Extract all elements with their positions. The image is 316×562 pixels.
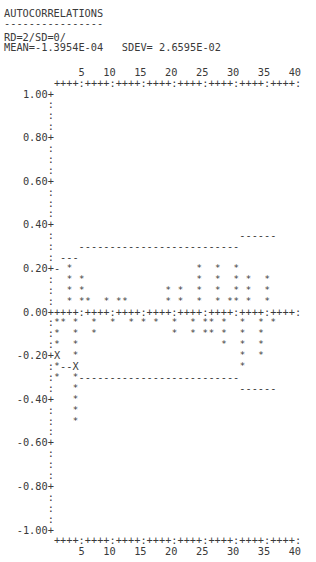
x-tick-label: 15 (134, 67, 146, 78)
top-ruler-mark: : (295, 78, 301, 89)
acf-bar-mark-lag-32: * (245, 285, 251, 296)
limit-crossing-mark: X (72, 361, 78, 372)
x-tick-label: 10 (103, 67, 115, 78)
y-axis-segment: : (48, 405, 54, 416)
x-tick-label: 15 (134, 546, 146, 557)
acf-bar-mark-lag-3: * (66, 263, 72, 274)
confidence-limit-dash: - (72, 252, 78, 263)
acf-bar-mark-lag-35: * (264, 296, 270, 307)
acf-bar-mark-lag-1: * (54, 361, 60, 372)
acf-bar-mark-lag-27: * (215, 263, 221, 274)
acf-bar-mark-lag-23: * (190, 328, 196, 339)
x-tick-label: 20 (165, 546, 177, 557)
y-axis-tick: + (48, 525, 54, 536)
acf-bar-mark-lag-34: * (258, 350, 264, 361)
acf-bar-mark-lag-34: * (258, 317, 264, 328)
acf-bar-mark-lag-4: * (72, 372, 78, 383)
acf-bar-mark-lag-34: * (258, 328, 264, 339)
y-tick-label: 0.60 (23, 176, 48, 187)
x-tick-label: 5 (79, 546, 85, 557)
acf-bar-mark-lag-30: * (233, 296, 239, 307)
acf-bar-mark-lag-21: * (177, 285, 183, 296)
acf-bar-mark-lag-7: * (91, 328, 97, 339)
y-tick-label: 0.40 (23, 219, 48, 230)
y-tick-label: 0.80 (23, 132, 48, 143)
acf-bar-mark-lag-35: * (264, 274, 270, 285)
confidence-limit-dash: - (270, 230, 276, 241)
acf-bar-mark-lag-28: * (221, 339, 227, 350)
acf-bar-mark-lag-32: * (245, 296, 251, 307)
confidence-limit-dash: - (54, 263, 60, 274)
y-tick-label: -0.80 (17, 481, 48, 492)
acf-bar-mark-lag-1: * (54, 328, 60, 339)
acf-bar-mark-lag-3: * (66, 285, 72, 296)
x-tick-label: 40 (289, 546, 301, 557)
x-tick-label: 35 (258, 546, 270, 557)
acf-bar-mark-lag-3: * (66, 274, 72, 285)
acf-bar-mark-lag-4: * (72, 317, 78, 328)
acf-bar-mark-lag-26: * (208, 317, 214, 328)
y-axis-segment: : (48, 514, 54, 525)
acf-bar-mark-lag-4: * (72, 416, 78, 427)
confidence-limit-dash: - (270, 383, 276, 394)
acf-bar-mark-lag-30: * (233, 285, 239, 296)
y-axis-segment: : (48, 296, 54, 307)
acf-bar-mark-lag-4: * (72, 339, 78, 350)
acf-bar-mark-lag-7: * (91, 317, 97, 328)
acf-bar-mark-lag-28: * (221, 317, 227, 328)
acf-bar-mark-lag-24: * (196, 274, 202, 285)
autocorrelation-plot: 1.00+:::0.80+:::0.60+:::0.40+:::0.20+:::… (0, 0, 316, 562)
y-tick-label: -0.40 (17, 394, 48, 405)
acf-bar-mark-lag-19: * (165, 285, 171, 296)
y-tick-label: -0.60 (17, 437, 48, 448)
acf-bar-mark-lag-31: * (239, 350, 245, 361)
acf-bar-mark-lag-24: * (196, 296, 202, 307)
acf-bar-mark-lag-5: * (79, 274, 85, 285)
x-tick-label: 30 (227, 67, 239, 78)
acf-bar-mark-lag-17: * (153, 317, 159, 328)
acf-bar-mark-lag-6: * (85, 296, 91, 307)
acf-bar-mark-lag-31: * (239, 361, 245, 372)
x-tick-label: 5 (79, 67, 85, 78)
acf-bar-mark-lag-21: * (177, 296, 183, 307)
acf-bar-mark-lag-2: * (60, 317, 66, 328)
acf-bar-mark-lag-15: * (140, 317, 146, 328)
x-tick-label: 20 (165, 67, 177, 78)
acf-bar-mark-lag-27: * (215, 285, 221, 296)
x-tick-label: 25 (196, 546, 208, 557)
acf-bar-mark-lag-4: * (72, 383, 78, 394)
acf-bar-mark-lag-1: * (54, 372, 60, 383)
y-tick-label: -1.00 (17, 525, 48, 536)
acf-bar-mark-lag-35: * (264, 285, 270, 296)
acf-bar-mark-lag-13: * (128, 317, 134, 328)
acf-bar-mark-lag-28: * (221, 328, 227, 339)
acf-bar-mark-lag-34: * (258, 339, 264, 350)
acf-bar-mark-lag-19: * (165, 296, 171, 307)
acf-bar-mark-lag-24: * (196, 285, 202, 296)
acf-bar-mark-lag-24: * (196, 263, 202, 274)
acf-bar-mark-lag-26: * (208, 328, 214, 339)
x-tick-label: 10 (103, 546, 115, 557)
acf-bar-mark-lag-12: * (122, 296, 128, 307)
acf-bar-mark-lag-23: * (190, 317, 196, 328)
x-tick-label: 35 (258, 67, 270, 78)
acf-bar-mark-lag-31: * (239, 339, 245, 350)
acf-bar-mark-lag-5: * (79, 285, 85, 296)
acf-bar-mark-lag-27: * (215, 296, 221, 307)
y-tick-label: -0.20 (17, 350, 48, 361)
acf-bar-mark-lag-4: * (72, 394, 78, 405)
acf-bar-mark-lag-27: * (215, 274, 221, 285)
acf-bar-mark-lag-3: * (66, 296, 72, 307)
acf-bar-mark-lag-32: * (245, 274, 251, 285)
acf-bar-mark-lag-31: * (239, 317, 245, 328)
y-axis-segment: : (48, 187, 54, 198)
x-tick-label: 40 (289, 67, 301, 78)
acf-bar-mark-lag-20: * (171, 328, 177, 339)
y-tick-label: 1.00 (23, 89, 48, 100)
acf-bar-mark-lag-30: * (233, 274, 239, 285)
acf-bar-mark-lag-31: * (239, 328, 245, 339)
limit-crossing-mark: X (54, 350, 60, 361)
acf-bar-mark-lag-30: * (233, 263, 239, 274)
acf-bar-mark-lag-20: * (171, 317, 177, 328)
acf-bar-mark-lag-4: * (72, 328, 78, 339)
